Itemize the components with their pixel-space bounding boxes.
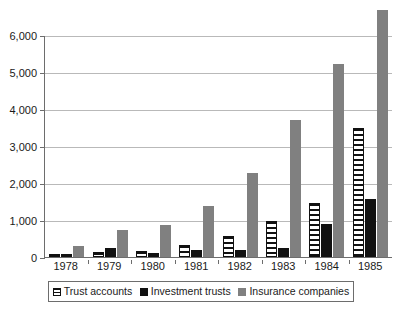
y-tick-label: 4,000 [9,105,37,116]
legend-item-insurance-companies[interactable]: Insurance companies [238,286,349,297]
legend-label: Trust accounts [64,286,132,297]
x-tick-label-1981: 1981 [175,260,219,273]
x-axis-labels: 19781979198019811982198319841985 [44,260,392,273]
bar-1985-trust-accounts[interactable] [353,128,364,257]
bar-1981-investment-trusts[interactable] [191,250,202,257]
bar-1979-investment-trusts[interactable] [105,248,116,257]
x-tick-mark [131,260,132,264]
bar-group-1984 [305,36,348,257]
x-tick-label-1984: 1984 [305,260,349,273]
y-tick-mark-0 [40,258,45,259]
x-tick-mark [175,260,176,264]
x-tick-label-1982: 1982 [218,260,262,273]
legend-swatch-icon [53,288,61,296]
bar-group-1982 [219,36,262,257]
chart-legend: Trust accountsInvestment trustsInsurance… [48,281,354,302]
y-tick-label: 2,000 [9,179,37,190]
legend-item-trust-accounts[interactable]: Trust accounts [53,286,132,297]
bar-1979-insurance-companies[interactable] [117,230,128,257]
bar-1978-investment-trusts[interactable] [61,254,72,257]
bar-1980-insurance-companies[interactable] [160,225,171,257]
x-tick-mark [88,260,89,264]
x-tick-label-1985: 1985 [349,260,393,273]
x-tick-mark [262,260,263,264]
bar-group-1979 [88,36,131,257]
bar-group-1983 [262,36,305,257]
bar-1985-investment-trusts[interactable] [365,199,376,257]
bar-1980-investment-trusts[interactable] [148,253,159,257]
bar-group-1981 [175,36,218,257]
bar-1984-insurance-companies[interactable] [333,64,344,258]
bar-1983-trust-accounts[interactable] [266,221,277,257]
bar-group-1978 [45,36,88,257]
x-tick-label-1978: 1978 [44,260,88,273]
y-tick-label: 0 [31,253,37,264]
y-tick-label: 3,000 [9,142,37,153]
x-tick-mark [218,260,219,264]
bar-1982-trust-accounts[interactable] [223,236,234,257]
bar-1983-insurance-companies[interactable] [290,120,301,257]
bar-chart: 01,0002,0003,0004,0005,0006,000 19781979… [0,0,404,310]
bar-1984-trust-accounts[interactable] [309,203,320,257]
x-tick-mark [349,260,350,264]
y-tick-label: 1,000 [9,216,37,227]
x-tick-mark [305,260,306,264]
bar-1983-investment-trusts[interactable] [278,248,289,257]
bar-1978-trust-accounts[interactable] [49,254,60,257]
x-tick-label-1983: 1983 [262,260,306,273]
bar-1978-insurance-companies[interactable] [73,246,84,257]
bars-layer [45,36,392,257]
legend-swatch-icon [238,288,246,296]
x-tick-label-1979: 1979 [88,260,132,273]
legend-swatch-icon [140,288,148,296]
bar-1982-insurance-companies[interactable] [247,173,258,257]
bar-1981-trust-accounts[interactable] [179,245,190,257]
legend-label: Investment trusts [151,286,231,297]
bar-1982-investment-trusts[interactable] [235,250,246,257]
bar-1980-trust-accounts[interactable] [136,251,147,257]
y-tick-label: 6,000 [9,31,37,42]
x-tick-label-1980: 1980 [131,260,175,273]
legend-item-investment-trusts[interactable]: Investment trusts [140,286,231,297]
legend-label: Insurance companies [249,286,349,297]
bar-1979-trust-accounts[interactable] [93,252,104,257]
bar-1985-insurance-companies[interactable] [377,10,388,257]
bar-1984-investment-trusts[interactable] [321,224,332,257]
bar-group-1985 [349,36,392,257]
y-tick-label: 5,000 [9,68,37,79]
bar-1981-insurance-companies[interactable] [203,206,214,257]
plot-area: 01,0002,0003,0004,0005,0006,000 [44,36,392,258]
bar-group-1980 [132,36,175,257]
